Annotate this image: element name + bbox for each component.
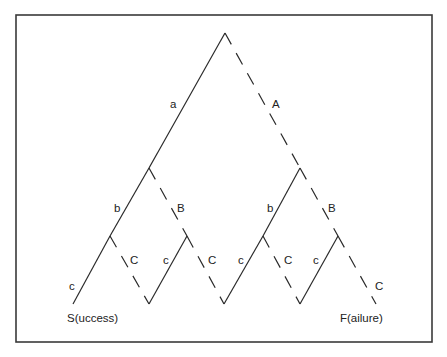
label-b-left: b	[114, 202, 120, 214]
label-b-right: b	[267, 202, 273, 214]
label-c-2: c	[163, 254, 169, 266]
edge-aB-C	[187, 236, 224, 304]
edge-a	[149, 33, 225, 168]
label-C-1: C	[130, 254, 138, 266]
edge-Ab-c	[224, 236, 263, 304]
label-B-right: B	[328, 202, 336, 214]
edge-Ab-C	[263, 236, 300, 304]
label-c-1: c	[69, 280, 75, 292]
label-a: a	[170, 98, 177, 110]
success-endpoint-label: S(uccess)	[67, 312, 118, 324]
edge-AB-c	[300, 236, 338, 304]
edge-A	[225, 33, 300, 168]
failure-endpoint-label: F(ailure)	[340, 312, 383, 324]
edge-aB-c	[149, 236, 187, 304]
label-C-2: C	[208, 254, 216, 266]
label-c-4: c	[313, 254, 319, 266]
edge-AB-C	[338, 236, 376, 304]
edge-ab-c	[73, 236, 110, 304]
label-C-4: C	[375, 280, 383, 292]
label-C-3: C	[284, 254, 292, 266]
label-B-left: B	[177, 202, 185, 214]
label-c-3: c	[238, 254, 244, 266]
label-A: A	[272, 98, 280, 110]
edge-ab-C	[110, 236, 149, 304]
probability-tree-diagram: a A b B b B c C c C c C c C S(uccess) F(…	[0, 0, 447, 357]
